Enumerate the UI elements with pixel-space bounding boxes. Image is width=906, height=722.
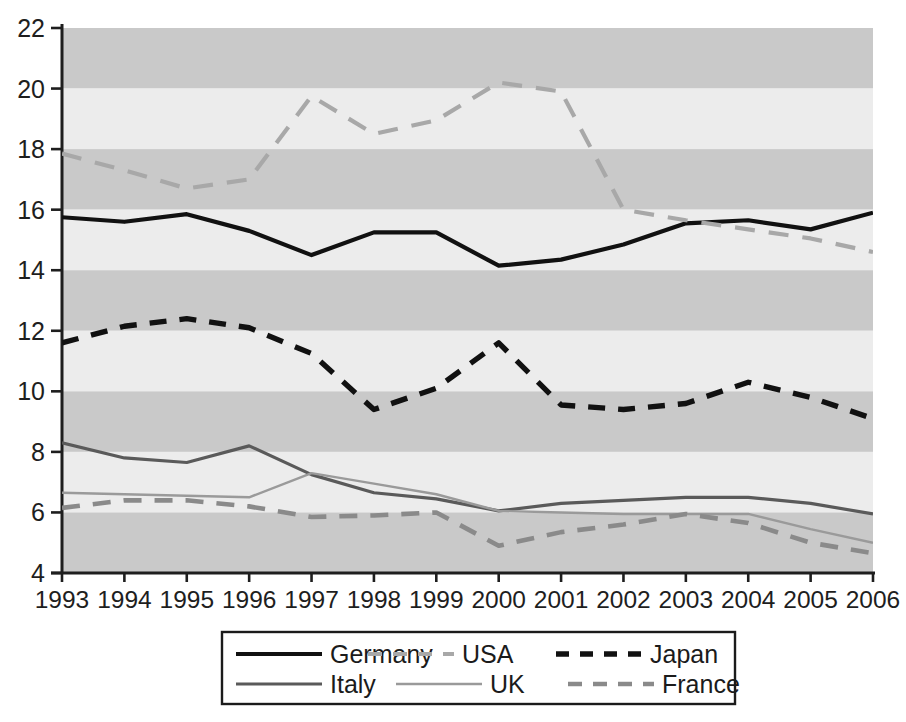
x-tick-label: 2002	[596, 586, 651, 613]
x-tick-label: 1998	[347, 586, 402, 613]
x-tick-label: 2004	[721, 586, 776, 613]
background-band	[62, 149, 873, 210]
y-tick-label: 18	[17, 135, 45, 163]
x-axis: 1993199419951996199719981999200020012002…	[35, 573, 901, 613]
y-axis: 46810121416182022	[17, 14, 62, 587]
x-tick-label: 1994	[97, 586, 152, 613]
legend-label-uk: UK	[490, 670, 525, 698]
y-tick-label: 12	[17, 317, 45, 345]
x-tick-label: 1993	[35, 586, 90, 613]
x-tick-label: 1997	[284, 586, 339, 613]
y-tick-label: 10	[17, 377, 45, 405]
x-tick-label: 1999	[409, 586, 464, 613]
background-band	[62, 512, 873, 573]
y-tick-label: 22	[17, 14, 45, 42]
x-tick-label: 2005	[783, 586, 838, 613]
line-chart: 4681012141618202219931994199519961997199…	[0, 0, 906, 722]
y-tick-label: 6	[31, 498, 45, 526]
legend-label-usa: USA	[462, 640, 514, 668]
legend-label-france: France	[662, 670, 740, 698]
legend-label-italy: Italy	[330, 670, 376, 698]
x-tick-label: 2006	[846, 586, 901, 613]
background-band	[62, 28, 873, 89]
background-band	[62, 391, 873, 452]
x-tick-label: 2001	[534, 586, 589, 613]
chart-figure: 4681012141618202219931994199519961997199…	[0, 0, 906, 722]
background-band	[62, 89, 873, 150]
background-bands	[62, 28, 873, 573]
y-tick-label: 20	[17, 75, 45, 103]
y-tick-label: 4	[31, 559, 45, 587]
chart-legend: GermanyUSAJapanItalyUKFrance	[222, 632, 740, 704]
x-tick-label: 2000	[471, 586, 526, 613]
x-tick-label: 2003	[659, 586, 714, 613]
x-tick-label: 1996	[222, 586, 277, 613]
x-tick-label: 1995	[160, 586, 215, 613]
y-tick-label: 8	[31, 438, 45, 466]
legend-label-japan: Japan	[650, 640, 718, 668]
y-tick-label: 16	[17, 196, 45, 224]
y-tick-label: 14	[17, 256, 45, 284]
